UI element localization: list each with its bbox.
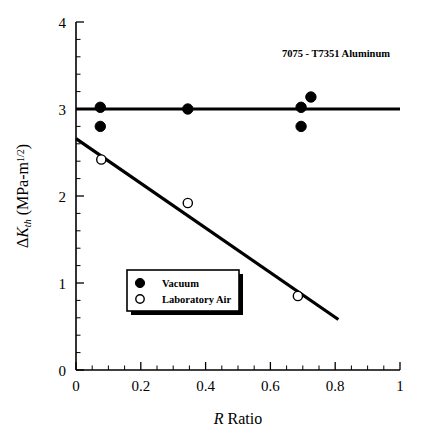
x-tick-label-0: 0 [72, 378, 80, 394]
y-tick-label-2: 2 [59, 189, 67, 205]
data-point-laboratory-air [97, 155, 106, 164]
legend-label-laboratory-air: Laboratory Air [162, 294, 231, 305]
data-point-vacuum [95, 121, 105, 131]
y-axis-title: ΔKth (MPa-m1/2) [14, 144, 33, 248]
data-point-vacuum [183, 104, 193, 114]
data-point-laboratory-air [293, 291, 302, 300]
x-axis-title: R Ratio [213, 410, 262, 427]
chart-svg: 0 0.2 0.4 0.6 0.8 1 0 1 2 3 4 R Ratio ΔK… [0, 0, 429, 437]
data-point-vacuum [296, 121, 306, 131]
data-point-laboratory-air [183, 198, 192, 207]
plot-area-background [76, 22, 400, 370]
y-axis-title-subscript: th [22, 219, 33, 227]
y-axis-title-exponent: 1/2 [15, 149, 26, 162]
y-tick-label-3: 3 [59, 102, 67, 118]
x-tick-label-4: 0.8 [326, 378, 345, 394]
y-axis-title-units: (MPa-m [14, 161, 32, 219]
y-axis-title-delta: Δ [14, 238, 31, 248]
x-tick-label-1: 0.2 [131, 378, 150, 394]
legend-marker-laboratory-air [136, 295, 144, 303]
y-axis-title-close: ) [14, 144, 32, 149]
material-annotation: 7075 - T7351 Aluminum [282, 48, 390, 59]
x-tick-label-2: 0.4 [196, 378, 215, 394]
x-axis-tick-labels: 0 0.2 0.4 0.6 0.8 1 [72, 378, 404, 394]
y-tick-label-0: 0 [59, 363, 67, 379]
y-axis-tick-labels: 0 1 2 3 4 [59, 15, 67, 379]
x-tick-label-3: 0.6 [261, 378, 280, 394]
data-point-vacuum [95, 102, 105, 112]
legend: Vacuum Laboratory Air [127, 270, 243, 315]
x-axis-title-rest: Ratio [224, 410, 263, 427]
figure-root: 0 0.2 0.4 0.6 0.8 1 0 1 2 3 4 R Ratio ΔK… [0, 0, 429, 437]
y-tick-label-4: 4 [59, 15, 67, 31]
y-tick-label-1: 1 [59, 276, 67, 292]
legend-marker-vacuum [135, 278, 144, 287]
legend-label-vacuum: Vacuum [162, 278, 199, 289]
x-tick-label-5: 1 [396, 378, 404, 394]
data-point-vacuum [296, 102, 306, 112]
x-axis-title-symbol: R [213, 410, 224, 427]
data-point-vacuum [306, 92, 316, 102]
